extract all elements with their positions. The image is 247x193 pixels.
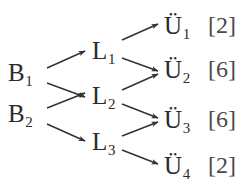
node-u2: Ü2 [164,57,190,82]
edge-l1-u1 [122,24,158,40]
weight-u4: [2] [208,153,236,177]
weight-u3: [6] [208,107,236,131]
node-l1: L1 [92,38,115,63]
node-u1: Ü1 [164,13,190,38]
edge-l2-u3 [122,104,158,118]
node-u2-base: Ü [164,56,182,83]
weight-u2: [6] [208,57,236,81]
node-u1-base: Ü [164,12,182,39]
node-u4-base: Ü [164,152,182,179]
diagram-canvas: B1 B2 L1 L2 L3 Ü1 Ü2 Ü3 Ü4 [2] [6] [6] [… [0,0,247,193]
node-b2-base: B [8,100,25,127]
edge-b2-l3 [47,124,85,141]
node-b1-base: B [8,59,25,86]
edge-l3-u3 [122,122,158,136]
edge-l3-u4 [122,150,158,164]
node-u4: Ü4 [164,153,190,178]
node-u1-subscript: 1 [183,26,191,42]
node-l2-base: L [92,82,107,109]
node-l3: L3 [92,129,115,154]
edge-l2-u2 [122,74,158,90]
node-b1-subscript: 1 [25,73,33,89]
node-l2-subscript: 2 [108,96,116,112]
edge-b1-l1 [47,51,85,68]
node-l3-base: L [92,128,107,155]
node-l1-base: L [92,37,107,64]
node-b1: B1 [8,60,32,85]
node-l1-subscript: 1 [108,51,116,67]
node-u3: Ü3 [164,107,190,132]
node-l3-subscript: 3 [108,142,116,158]
node-l2: L2 [92,83,115,108]
node-u3-subscript: 3 [183,120,191,136]
node-b2: B2 [8,101,32,126]
node-u3-base: Ü [164,106,182,133]
edge-l1-u2 [122,58,158,71]
node-u4-subscript: 4 [183,166,191,182]
edge-b2-l2 [47,93,85,108]
node-u2-subscript: 2 [183,70,191,86]
node-b2-subscript: 2 [25,114,33,130]
weight-u1: [2] [208,13,236,37]
